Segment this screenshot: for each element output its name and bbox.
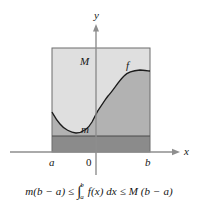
y-axis-label: y xyxy=(93,9,99,21)
integral-limits: ba xyxy=(80,185,84,199)
caption-lhs: m(b − a) xyxy=(25,185,65,197)
x-axis-arrowhead xyxy=(172,149,180,155)
y-axis-arrowhead xyxy=(93,24,99,32)
integral-bounds-figure: y x a 0 b M m f m(b − a) ≤ ∫ba f(x) dx ≤… xyxy=(0,0,198,206)
x-tick-label-origin: 0 xyxy=(86,156,92,168)
integral-lower-limit: a xyxy=(80,194,84,201)
caption-rhs: M (b − a) xyxy=(129,185,173,197)
plot-area: y x a 0 b M m f xyxy=(0,0,198,175)
caption-integrand: f(x) dx xyxy=(88,185,117,197)
upper-bound-label-M: M xyxy=(79,55,90,67)
m-band-region xyxy=(52,136,150,152)
x-tick-label-a: a xyxy=(49,156,55,168)
figure-caption: m(b − a) ≤ ∫ba f(x) dx ≤ M (b − a) xyxy=(0,182,198,199)
x-axis-label: x xyxy=(183,145,189,157)
lower-bound-label-m: m xyxy=(81,123,89,135)
caption-relation-2: ≤ xyxy=(120,185,126,197)
x-tick-label-b: b xyxy=(145,156,151,168)
integral-upper-limit: b xyxy=(80,182,84,189)
